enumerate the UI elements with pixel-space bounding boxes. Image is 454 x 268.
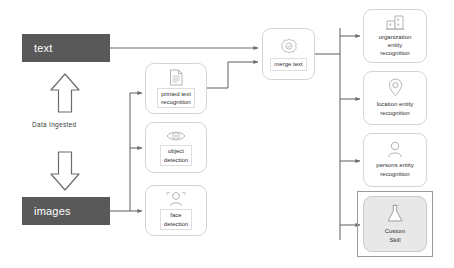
flask-icon [385, 203, 405, 224]
skill-card-organization-entity-recognition-label: organization entity recognition [376, 32, 415, 58]
skill-card-location-entity-recognition-label: location entity recognition [374, 99, 417, 117]
document-icon [169, 69, 184, 86]
skill-card-persons-entity-recognition[interactable]: persons entity recognition [363, 133, 427, 187]
skill-card-object-detection-label: object detection [160, 145, 192, 165]
source-block-text-label: text [34, 42, 53, 54]
skill-card-printed-text-recognition-label: printed text recognition [157, 88, 195, 108]
skill-card-location-entity-recognition[interactable]: location entity recognition [363, 71, 427, 125]
skill-card-custom-skill[interactable]: Custom Skill [363, 196, 427, 252]
face-icon [166, 191, 186, 207]
source-block-text: text [22, 34, 110, 62]
ingest-arrow-down-icon [48, 150, 82, 192]
person-icon [386, 141, 404, 158]
source-block-images-label: images [34, 205, 71, 217]
skill-card-organization-entity-recognition[interactable]: organization entity recognition [363, 9, 427, 63]
skill-card-merge-text-label: merge text [270, 58, 306, 70]
skill-card-printed-text-recognition[interactable]: printed text recognition [145, 63, 207, 114]
map-pin-icon [388, 78, 403, 97]
diagram-canvas: text images Data Ingested printed text r… [0, 0, 454, 268]
skill-card-custom-skill-label: Custom Skill [382, 226, 409, 244]
merge-gear-icon [279, 37, 299, 56]
building-icon [385, 14, 405, 30]
skill-card-merge-text[interactable]: merge text [262, 28, 315, 80]
ingest-arrow-up-icon [48, 72, 82, 114]
skill-card-face-detection[interactable]: face detection [145, 185, 207, 236]
skill-card-object-detection[interactable]: object detection [145, 122, 207, 173]
source-block-images: images [22, 197, 110, 225]
skill-card-persons-entity-recognition-label: persons entity recognition [373, 160, 416, 178]
data-ingested-label: Data Ingested [32, 121, 76, 128]
eye-icon [165, 129, 187, 143]
skill-card-face-detection-label: face detection [160, 209, 192, 229]
